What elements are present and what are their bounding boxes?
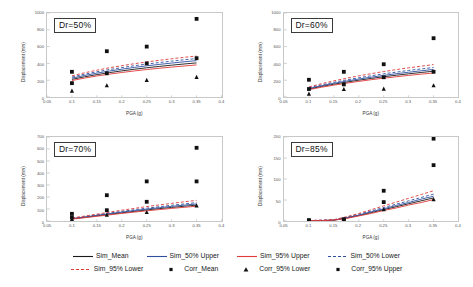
legend-row-1: Sim_MeanSim_50% UpperSim_95% UpperSim_50… xyxy=(0,250,473,263)
x-tick-label: 0.35 xyxy=(192,99,200,104)
panel-label-dr50: Dr=50% xyxy=(54,18,96,33)
panel-grid: Displacement (mm) PGA (g) Dr=50% 0.050.1… xyxy=(0,0,473,248)
legend-item-sim-95-upper: Sim_95% Upper xyxy=(237,253,310,260)
x-tick-label: 0.4 xyxy=(219,223,225,228)
x-tick-label: 0.1 xyxy=(69,99,75,104)
y-tick-label: 800 xyxy=(37,27,44,32)
y-tick-label: 500 xyxy=(37,158,44,163)
y-tick-label: 600 xyxy=(37,146,44,151)
panel-dr50: Displacement (mm) PGA (g) Dr=50% 0.050.1… xyxy=(0,0,237,124)
y-tick-label: 700 xyxy=(37,134,44,139)
legend-key-line-solid-blue-icon xyxy=(147,253,167,260)
y-tick-label: 200 xyxy=(274,78,281,83)
x-tick-label: 0.1 xyxy=(306,99,312,104)
panel-inner: Displacement (mm) PGA (g) Dr=85% 0.050.1… xyxy=(237,124,473,248)
legend-key-line-dashed-red-icon xyxy=(71,266,91,273)
legend-item-sim-95-lower: Sim_95% Lower xyxy=(71,266,144,273)
x-tick-label: 0.15 xyxy=(93,223,101,228)
legend-label: Sim_95% Lower xyxy=(94,266,144,273)
legend-label: Sim_95% Upper xyxy=(260,253,310,260)
x-tick-label: 0.35 xyxy=(429,99,437,104)
y-tick-labels: 02004006008001000 xyxy=(0,12,237,98)
x-tick-label: 0.3 xyxy=(405,99,411,104)
x-tick-label: 0.3 xyxy=(169,99,175,104)
panel-label-dr85: Dr=85% xyxy=(291,142,333,157)
x-tick-label: 0.15 xyxy=(93,99,101,104)
x-tick-label: 0.4 xyxy=(455,99,461,104)
legend-label: Corr_Mean xyxy=(184,266,218,273)
legend-item-sim-50-lower: Sim_50% Lower xyxy=(328,253,401,260)
legend-key-line-dashed-blue-icon xyxy=(328,253,348,260)
panel-dr70: Displacement (mm) PGA (g) Dr=70% 0.050.1… xyxy=(0,124,237,248)
y-tick-label: 100 xyxy=(274,177,281,182)
x-axis-label: PGA (g) xyxy=(46,235,223,240)
y-tick-label: 0 xyxy=(42,220,44,225)
legend-key-marker-square-icon xyxy=(328,266,348,273)
legend-key-marker-square-icon xyxy=(161,266,181,273)
legend-key-line-solid-black-icon xyxy=(73,253,93,260)
y-tick-label: 300 xyxy=(37,183,44,188)
panel-label-dr70: Dr=70% xyxy=(54,142,96,157)
x-axis-label: PGA (g) xyxy=(46,111,223,116)
y-tick-label: 200 xyxy=(37,195,44,200)
x-tick-label: 0.05 xyxy=(279,99,287,104)
y-tick-labels: 02004006008001000 xyxy=(237,12,473,98)
x-tick-label: 0.35 xyxy=(192,223,200,228)
x-tick-label: 0.05 xyxy=(43,223,51,228)
x-tick-label: 0.1 xyxy=(306,223,312,228)
y-tick-label: 800 xyxy=(274,27,281,32)
x-tick-label: 0.2 xyxy=(355,99,361,104)
x-tick-label: 0.4 xyxy=(219,99,225,104)
legend-item-corr-95-upper: Corr_95% Upper xyxy=(328,266,402,273)
y-tick-label: 400 xyxy=(37,170,44,175)
x-tick-label: 0.2 xyxy=(355,223,361,228)
legend-label: Sim_Mean xyxy=(96,253,129,260)
x-tick-label: 0.1 xyxy=(69,223,75,228)
x-tick-label: 0.3 xyxy=(169,223,175,228)
x-tick-label: 0.05 xyxy=(43,99,51,104)
figure-legend: Sim_MeanSim_50% UpperSim_95% UpperSim_50… xyxy=(0,248,473,287)
x-tick-label: 0.35 xyxy=(429,223,437,228)
y-tick-labels: 0100200300400500600700 xyxy=(0,136,237,222)
y-tick-label: 600 xyxy=(37,44,44,49)
y-tick-label: 600 xyxy=(274,44,281,49)
x-axis-label: PGA (g) xyxy=(283,111,460,116)
panel-inner: Displacement (mm) PGA (g) Dr=50% 0.050.1… xyxy=(0,0,237,124)
x-tick-label: 0.25 xyxy=(143,223,151,228)
y-tick-label: 1000 xyxy=(271,10,280,15)
y-tick-label: 200 xyxy=(274,134,281,139)
x-tick-label: 0.4 xyxy=(455,223,461,228)
legend-item-corr-mean: Corr_Mean xyxy=(161,266,218,273)
y-tick-label: 50 xyxy=(276,198,281,203)
y-tick-label: 100 xyxy=(37,207,44,212)
legend-label: Sim_50% Lower xyxy=(351,253,401,260)
panel-dr60: Displacement (mm) PGA (g) Dr=60% 0.050.1… xyxy=(237,0,473,124)
x-tick-label: 0.25 xyxy=(143,99,151,104)
legend-item-sim-mean: Sim_Mean xyxy=(73,253,129,260)
y-tick-label: 200 xyxy=(37,78,44,83)
panel-dr85: Displacement (mm) PGA (g) Dr=85% 0.050.1… xyxy=(237,124,473,248)
x-tick-label: 0.25 xyxy=(379,99,387,104)
legend-key-marker-triangle-icon xyxy=(236,266,256,273)
y-tick-label: 400 xyxy=(37,61,44,66)
x-tick-label: 0.15 xyxy=(329,223,337,228)
y-tick-label: 0 xyxy=(278,220,280,225)
legend-label: Sim_50% Upper xyxy=(170,253,220,260)
legend-item-sim-50-upper: Sim_50% Upper xyxy=(147,253,220,260)
x-axis-label: PGA (g) xyxy=(283,235,460,240)
legend-item-corr-95-lower: Corr_95% Lower xyxy=(236,266,310,273)
x-tick-label: 0.3 xyxy=(405,223,411,228)
panel-label-dr60: Dr=60% xyxy=(291,18,333,33)
y-tick-label: 0 xyxy=(278,96,280,101)
x-tick-label: 0.25 xyxy=(379,223,387,228)
y-tick-label: 400 xyxy=(274,61,281,66)
panel-inner: Displacement (mm) PGA (g) Dr=60% 0.050.1… xyxy=(237,0,473,124)
x-tick-label: 0.2 xyxy=(119,99,125,104)
legend-row-2: Sim_95% LowerCorr_MeanCorr_95% LowerCorr… xyxy=(0,263,473,276)
y-tick-label: 1000 xyxy=(35,10,44,15)
legend-label: Corr_95% Upper xyxy=(351,266,402,273)
panel-inner: Displacement (mm) PGA (g) Dr=70% 0.050.1… xyxy=(0,124,237,248)
x-tick-label: 0.15 xyxy=(329,99,337,104)
legend-label: Corr_95% Lower xyxy=(259,266,310,273)
y-tick-label: 0 xyxy=(42,96,44,101)
